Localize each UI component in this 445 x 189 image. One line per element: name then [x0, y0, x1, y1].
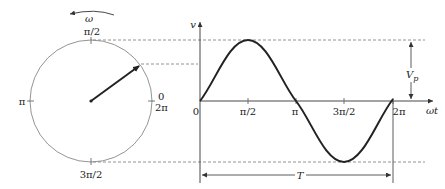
period-indicator: T — [202, 170, 391, 181]
x-tick-label-pi: π — [292, 106, 299, 117]
amplitude-label: Vp — [406, 69, 418, 83]
y-axis-label: v — [190, 19, 196, 30]
x-axis-label: ωt — [426, 105, 439, 116]
period-label: T — [297, 170, 305, 181]
amplitude-indicator: Vp — [406, 42, 418, 99]
phasor-waveform-diagram: ω π/2 π 0 2π 3π/2 v ωt 0 π/2 π 3π/2 2π V… — [0, 0, 445, 189]
label-pi-left: π — [19, 96, 26, 107]
phasor-circle-group: ω π/2 π 0 2π 3π/2 — [19, 11, 169, 180]
label-pi-over-2-top: π/2 — [84, 26, 100, 37]
waveform-axes: v ωt 0 π/2 π 3π/2 2π — [190, 19, 439, 183]
x-tick-label-2pi: 2π — [393, 106, 406, 117]
phasor-origin-dot — [89, 99, 92, 102]
x-tick-label-pi-over-2: π/2 — [240, 106, 256, 117]
omega-label: ω — [85, 13, 93, 24]
label-2pi-right: 2π — [155, 102, 168, 113]
x-tick-label-0: 0 — [193, 106, 199, 117]
phasor-arrow — [91, 66, 139, 101]
x-tick-label-3pi-over-2: 3π/2 — [333, 106, 356, 117]
label-zero-right: 0 — [158, 91, 164, 102]
label-3pi-over-2-bottom: 3π/2 — [80, 169, 103, 180]
